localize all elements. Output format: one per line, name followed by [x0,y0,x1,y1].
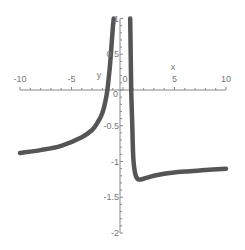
y-tick-label: 0 [113,89,118,99]
y-tick-label: 0.5 [106,49,119,59]
axes [20,19,226,234]
x-tick-label: 10 [221,74,231,84]
y-tick-label: -1.5 [103,192,119,202]
right-branch-curve [130,19,226,180]
curves [20,19,226,180]
y-tick-label: -2 [111,228,119,238]
x-tick-label: 0 [122,74,127,84]
x-tick-label: -10 [13,74,26,84]
x-tick-label: 5 [172,74,177,84]
y-tick-label: -1 [111,157,119,167]
x-axis-label: x [171,62,176,72]
y-tick-label: 1 [114,14,119,24]
x-tick-label: -5 [67,74,75,84]
function-plot: -10-50510-2-1.5-1-0.500.51xy [0,0,245,250]
y-tick-label: -0.5 [103,121,119,131]
y-axis-label: y [97,70,102,80]
left-branch-curve [20,19,114,153]
